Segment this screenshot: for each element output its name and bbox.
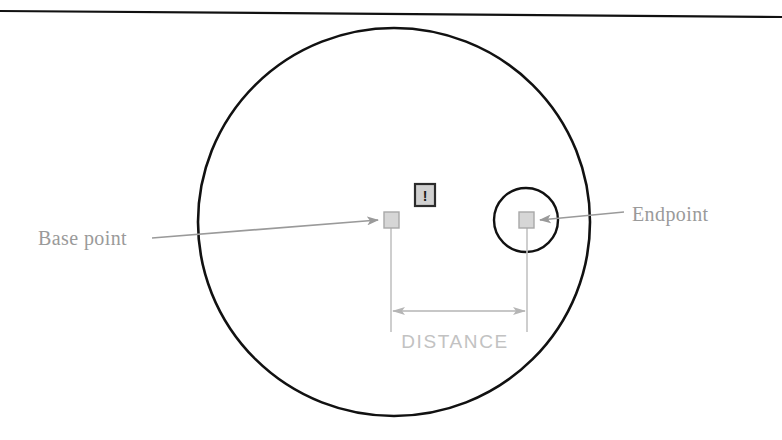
cad-distance-diagram: ! Base point Endpoint DISTANCE [0,0,782,440]
warning-icon-glyph: ! [423,188,428,204]
top-border-line [0,11,782,17]
warning-exclamation-icon[interactable]: ! [415,184,435,206]
base-point-marker[interactable] [384,212,399,228]
base-point-label: Base point [38,227,127,250]
base-point-leader-line [152,220,378,238]
distance-label: DISTANCE [401,331,508,352]
endpoint-leader-line [540,212,624,220]
endpoint-marker[interactable] [519,212,534,228]
diagram-canvas: ! Base point Endpoint DISTANCE [0,0,782,440]
endpoint-label: Endpoint [632,203,709,226]
